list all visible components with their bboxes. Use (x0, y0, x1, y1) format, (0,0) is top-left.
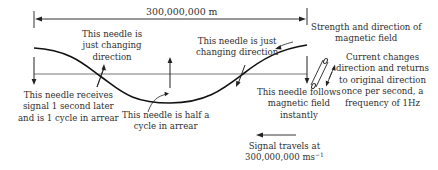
needle-half-cycle (168, 57, 173, 88)
label-needle-just-changing-left: This needle is just changing direction (82, 29, 142, 63)
needle-right (305, 56, 310, 84)
label-needle-half-cycle: This needle is half a cycle in arrear (122, 110, 209, 133)
label-needle-receives: This needle receives signal 1 second lat… (18, 90, 119, 124)
current-direction-arrows (326, 65, 336, 87)
wire-icon (311, 58, 328, 89)
signal-speed-value: 300,000,000 ms (245, 152, 315, 162)
label-field-strength: Strength and direction of magnetic field (311, 22, 421, 45)
signal-direction-arrow (256, 133, 296, 138)
distance-label: 300,000,000 m (146, 6, 218, 17)
label-current-changes: Current changes direction and returns to… (336, 52, 429, 109)
label-signal-travels: Signal travels at 300,000,000 ms−1 (245, 141, 324, 164)
label-needle-follows: This needle follows magnetic field insta… (257, 87, 341, 121)
needle-left (32, 57, 37, 85)
signal-speed-exponent: −1 (315, 151, 324, 158)
label-needle-just-changing-right: This needle is just changing direction (196, 36, 278, 59)
needle-crossing-right (236, 65, 245, 87)
